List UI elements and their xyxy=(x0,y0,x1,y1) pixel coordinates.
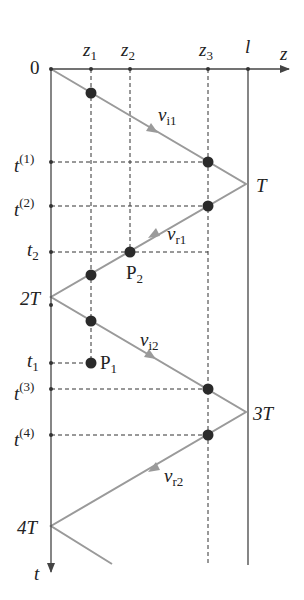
t-sup2-label: t(2) xyxy=(14,196,34,219)
point-P1-label: P1 xyxy=(100,353,117,375)
v-r1-label: vr1 xyxy=(167,224,186,246)
t-sup1-label: t(1) xyxy=(14,152,34,175)
point-P2-label: P2 xyxy=(126,263,143,285)
z3-label: z3 xyxy=(199,40,213,62)
v-i2-label: vi2 xyxy=(140,330,159,352)
time-T-label: T xyxy=(256,176,267,195)
v-r2-label: vr2 xyxy=(164,466,183,488)
t2-label: t2 xyxy=(27,240,39,262)
dot-z1-incident2 xyxy=(86,316,97,327)
z-axis-label: z xyxy=(280,44,287,63)
dot-z1-reflected1 xyxy=(86,270,97,281)
arrow-vi1-icon xyxy=(146,123,158,133)
time-3T-label: 3T xyxy=(253,404,273,423)
dot-P2 xyxy=(125,247,136,258)
dot-z3-t1 xyxy=(203,157,214,168)
time-4T-label: 4T xyxy=(17,518,37,537)
dot-z1-incident1 xyxy=(86,88,97,99)
dot-z3-t3 xyxy=(203,384,214,395)
dot-z3-t4 xyxy=(203,430,214,441)
time-2T-label: 2T xyxy=(20,289,40,308)
t-axis-label: t xyxy=(34,564,39,583)
origin-label: 0 xyxy=(30,58,40,77)
l-label: l xyxy=(245,37,250,56)
v-i1-label: vi1 xyxy=(158,105,177,127)
t-sup3-label: t(3) xyxy=(14,380,34,403)
space-time-diagram xyxy=(0,0,304,600)
t1-label: t1 xyxy=(27,351,39,373)
t-sup4-label: t(4) xyxy=(14,426,34,449)
dot-z3-t2 xyxy=(203,201,214,212)
dashed-guides-vertical xyxy=(91,69,208,565)
arrow-vr1-icon xyxy=(148,228,160,238)
wave-direction-arrows xyxy=(144,123,160,472)
z1-label: z1 xyxy=(83,40,97,62)
event-dots xyxy=(86,88,214,441)
wave-path xyxy=(51,69,246,564)
z2-label: z2 xyxy=(121,40,135,62)
dot-P1 xyxy=(86,358,97,369)
